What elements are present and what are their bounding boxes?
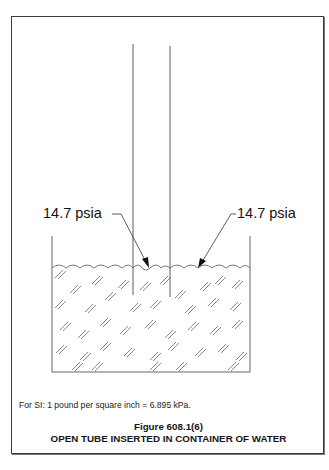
left-pressure-label: 14.7 psia	[43, 205, 102, 221]
right-arrowhead-icon	[198, 258, 206, 268]
water-hatching	[55, 270, 247, 371]
open-tube	[133, 44, 170, 297]
container	[52, 236, 250, 372]
figure-number: Figure 608.1(6)	[11, 421, 326, 433]
left-arrowhead-icon	[142, 257, 149, 268]
si-conversion-note: For SI: 1 pound per square inch = 6.895 …	[19, 400, 191, 411]
right-pressure-label: 14.7 psia	[237, 205, 296, 221]
right-pressure-leader	[202, 214, 236, 262]
left-pressure-leader	[112, 214, 146, 262]
figure-title: OPEN TUBE INSERTED IN CONTAINER OF WATER	[11, 433, 326, 445]
water-surface	[52, 265, 250, 270]
